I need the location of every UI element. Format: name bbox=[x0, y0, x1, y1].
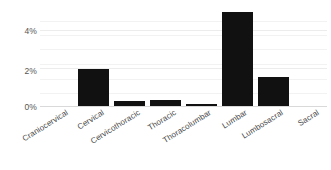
x-axis-tick-label-text: Lumbar bbox=[221, 108, 249, 130]
y-axis: 4% 2% 0% bbox=[0, 0, 37, 170]
x-axis: CraniocervicalCervicalCervicothoracicTho… bbox=[40, 108, 327, 168]
gridline-minor bbox=[40, 35, 327, 36]
x-axis-tick-label-text: Cervical bbox=[76, 108, 106, 131]
y-axis-tick-label-0: 0% bbox=[3, 102, 37, 112]
gridline-major bbox=[40, 30, 327, 31]
gridline-minor bbox=[40, 21, 327, 22]
gridline-minor bbox=[40, 49, 327, 50]
gridline-minor bbox=[40, 64, 327, 65]
plot-area bbox=[40, 3, 327, 107]
bar-chart: 4% 2% 0% CraniocervicalCervicalCervicoth… bbox=[0, 0, 331, 170]
y-axis-tick-label-2: 2% bbox=[3, 66, 37, 76]
x-axis-tick-label-text: Sacral bbox=[296, 108, 321, 128]
y-axis-tick-label-4: 4% bbox=[3, 26, 37, 36]
